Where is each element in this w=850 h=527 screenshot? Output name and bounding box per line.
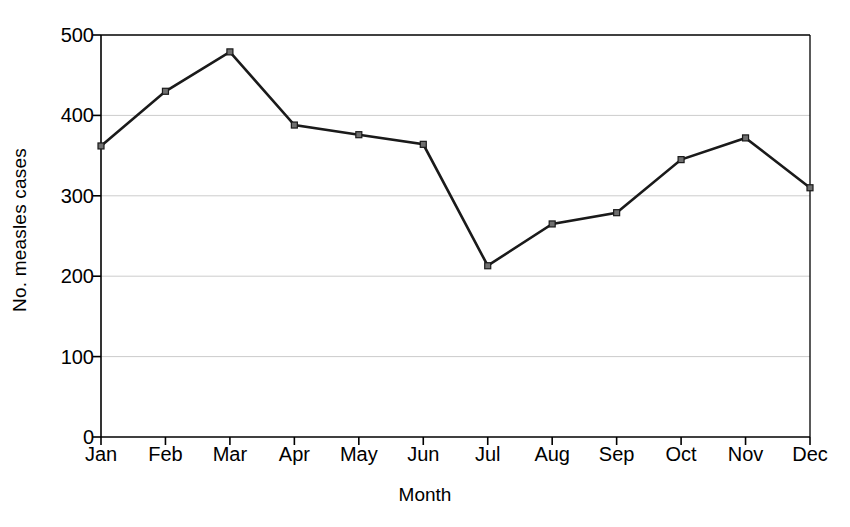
x-tick-label-sep: Sep bbox=[599, 443, 635, 466]
data-point-sep bbox=[614, 210, 620, 216]
data-point-oct bbox=[678, 157, 684, 163]
x-tick-label-may: May bbox=[340, 443, 378, 466]
x-tick-label-dec: Dec bbox=[792, 443, 828, 466]
x-tick-label-jun: Jun bbox=[407, 443, 439, 466]
data-line-measles-cases bbox=[101, 52, 810, 266]
x-axis-title-text: Month bbox=[399, 484, 452, 505]
x-tick-label-apr: Apr bbox=[279, 443, 310, 466]
measles-cases-line-chart: No. measles cases 500 400 300 200 100 0 … bbox=[0, 0, 850, 527]
data-point-jul bbox=[485, 263, 491, 269]
x-tick-label-mar: Mar bbox=[213, 443, 247, 466]
data-point-jun bbox=[420, 141, 426, 147]
data-point-dec bbox=[807, 185, 813, 191]
data-point-markers bbox=[98, 49, 813, 269]
data-point-aug bbox=[549, 221, 555, 227]
data-point-mar bbox=[227, 49, 233, 55]
data-point-nov bbox=[743, 135, 749, 141]
x-axis-title: Month bbox=[0, 484, 850, 506]
x-tick-label-oct: Oct bbox=[666, 443, 697, 466]
y-axis-ticks bbox=[93, 35, 101, 437]
data-point-feb bbox=[162, 88, 168, 94]
x-tick-label-jan: Jan bbox=[85, 443, 117, 466]
x-tick-label-aug: Aug bbox=[534, 443, 570, 466]
x-axis-ticks bbox=[101, 437, 810, 445]
data-point-apr bbox=[291, 122, 297, 128]
x-tick-label-nov: Nov bbox=[728, 443, 764, 466]
x-tick-label-jul: Jul bbox=[475, 443, 501, 466]
plot-frame bbox=[101, 35, 810, 437]
data-point-may bbox=[356, 132, 362, 138]
x-tick-label-feb: Feb bbox=[148, 443, 182, 466]
data-point-jan bbox=[98, 143, 104, 149]
